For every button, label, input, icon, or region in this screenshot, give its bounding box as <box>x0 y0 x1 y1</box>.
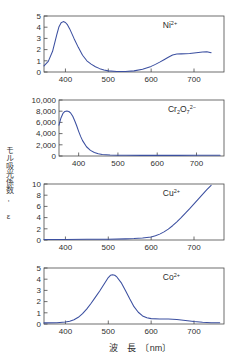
y-tick-label: 2,000 <box>36 141 57 150</box>
y-tick-label: 6,000 <box>36 118 57 127</box>
y-tick-label: 10 <box>32 180 41 189</box>
y-tick-label: 3 <box>37 34 42 43</box>
x-tick-label: 700 <box>187 327 201 336</box>
y-tick-label: 8,000 <box>36 107 57 116</box>
x-tick-label: 500 <box>102 327 116 336</box>
x-tick-label: 400 <box>59 243 73 252</box>
x-tick-label: 600 <box>144 327 158 336</box>
y-axis-label: モル吸光係数, ε <box>0 108 16 258</box>
y-tick-label: 5 <box>37 12 42 21</box>
plots-svg: 012345400500600700Ni2+02,0004,0006,0008,… <box>0 0 243 358</box>
plot-frame <box>44 16 224 72</box>
y-tick-label: 4 <box>37 213 42 222</box>
y-tick-label: 4 <box>37 275 42 284</box>
y-tick-label: 0 <box>37 68 42 77</box>
y-tick-label: 4 <box>37 23 42 32</box>
x-tick-label: 500 <box>102 243 116 252</box>
y-tick-label: 3 <box>37 286 42 295</box>
y-tick-label: 8 <box>37 191 42 200</box>
panel-3: 012345400500600700Co2+ <box>37 264 224 336</box>
y-tick-label: 5 <box>37 264 42 273</box>
x-tick-label: 700 <box>187 243 201 252</box>
x-tick-label: 600 <box>144 75 158 84</box>
x-tick-label: 500 <box>102 75 116 84</box>
plot-frame <box>44 184 224 240</box>
y-tick-label: 2 <box>37 297 42 306</box>
plot-frame <box>44 268 224 324</box>
x-tick-label: 600 <box>151 159 165 168</box>
y-tick-label: 2 <box>37 225 42 234</box>
panel-1: 02,0004,0006,0008,00010,000400500600700C… <box>32 96 224 168</box>
x-tick-label: 400 <box>72 159 86 168</box>
panel-2: 0246810400500600700Cu2+ <box>32 180 224 252</box>
x-tick-label: 400 <box>59 75 73 84</box>
y-tick-label: 2 <box>37 45 42 54</box>
x-axis-label: 波 長 〔nm〕 <box>60 341 220 354</box>
x-tick-label: 400 <box>59 327 73 336</box>
plot-frame <box>59 100 224 156</box>
panel-0: 012345400500600700Ni2+ <box>37 12 224 84</box>
y-tick-label: 0 <box>52 152 57 161</box>
y-tick-label: 1 <box>37 57 42 66</box>
y-tick-label: 0 <box>37 236 42 245</box>
y-tick-label: 6 <box>37 202 42 211</box>
x-tick-label: 700 <box>187 75 201 84</box>
x-tick-label: 700 <box>190 159 204 168</box>
y-tick-label: 1 <box>37 309 42 318</box>
y-tick-label: 4,000 <box>36 129 57 138</box>
x-tick-label: 500 <box>111 159 125 168</box>
spectra-figure: モル吸光係数, ε 012345400500600700Ni2+02,0004,… <box>0 0 243 358</box>
y-tick-label: 0 <box>37 320 42 329</box>
y-tick-label: 10,000 <box>32 96 57 105</box>
x-tick-label: 600 <box>144 243 158 252</box>
